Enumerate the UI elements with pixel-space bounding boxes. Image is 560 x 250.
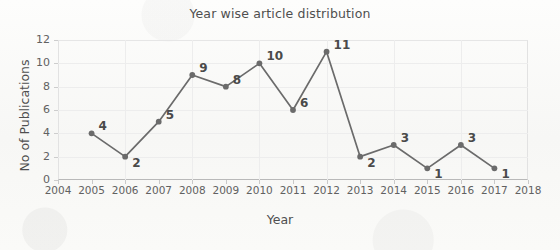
data-point-label: 4	[99, 119, 107, 133]
data-point-label: 6	[300, 96, 308, 110]
data-point-marker	[458, 142, 464, 148]
data-point-marker	[89, 130, 95, 136]
data-point-label: 1	[501, 167, 509, 181]
data-point-marker	[357, 154, 363, 160]
data-point-label: 10	[266, 49, 283, 63]
data-point-label: 1	[434, 167, 442, 181]
data-point-marker	[122, 154, 128, 160]
data-point-marker	[257, 60, 263, 66]
data-point-label: 3	[468, 131, 476, 145]
data-point-marker	[391, 142, 397, 148]
data-point-marker	[223, 84, 229, 90]
data-series-line	[0, 0, 560, 250]
data-point-marker	[324, 49, 330, 55]
data-point-label: 5	[166, 108, 174, 122]
data-point-marker	[492, 165, 498, 171]
chart-plot-area: 024681012 200420052006200720082009201020…	[0, 0, 560, 250]
data-point-marker	[290, 107, 296, 113]
data-point-marker	[156, 119, 162, 125]
data-point-marker	[424, 165, 430, 171]
data-point-label: 8	[233, 73, 241, 87]
data-point-label: 11	[334, 38, 351, 52]
data-point-label: 2	[367, 156, 375, 170]
data-point-marker	[189, 72, 195, 78]
data-point-label: 2	[132, 156, 140, 170]
data-point-label: 3	[401, 131, 409, 145]
data-point-label: 9	[199, 61, 207, 75]
